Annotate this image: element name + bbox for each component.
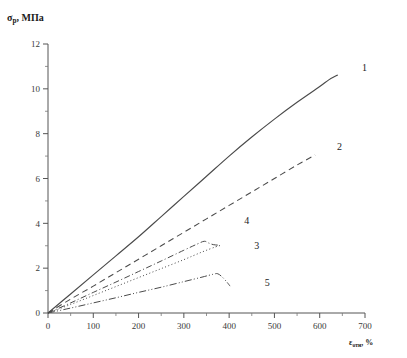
curve-label-5: 5 xyxy=(265,277,270,288)
curve-series-5 xyxy=(48,274,230,313)
y-tick-label: 2 xyxy=(36,263,41,273)
curves-group xyxy=(48,75,338,313)
axes-group: 0246810120100200300400500600700 xyxy=(31,39,372,331)
chart-root: σр, МПа εотн, % 024681012010020030040050… xyxy=(0,0,407,358)
x-tick-label: 600 xyxy=(313,321,327,331)
y-tick-label: 6 xyxy=(36,174,41,184)
y-tick-label: 12 xyxy=(31,39,40,49)
y-tick-label: 4 xyxy=(36,219,41,229)
y-tick-label: 8 xyxy=(36,129,41,139)
curve-label-2: 2 xyxy=(337,141,342,152)
x-axis-label: εотн, % xyxy=(349,338,373,348)
x-tick-label: 300 xyxy=(177,321,191,331)
y-axis-label: σр, МПа xyxy=(7,12,44,25)
curve-label-1: 1 xyxy=(362,62,367,73)
curve-label-4: 4 xyxy=(244,215,249,226)
x-tick-label: 200 xyxy=(132,321,146,331)
x-tick-label: 400 xyxy=(222,321,236,331)
x-tick-label: 700 xyxy=(358,321,372,331)
curve-series-3 xyxy=(48,245,221,313)
x-tick-label: 500 xyxy=(268,321,282,331)
y-tick-label: 10 xyxy=(31,84,41,94)
plot-area: 0246810120100200300400500600700 xyxy=(0,0,407,358)
x-tick-label: 100 xyxy=(87,321,101,331)
curve-series-2 xyxy=(48,155,315,313)
curve-label-3: 3 xyxy=(254,240,259,251)
curve-series-4 xyxy=(48,241,220,313)
y-tick-label: 0 xyxy=(36,308,41,318)
x-tick-label: 0 xyxy=(46,321,51,331)
curve-series-1 xyxy=(48,75,338,313)
